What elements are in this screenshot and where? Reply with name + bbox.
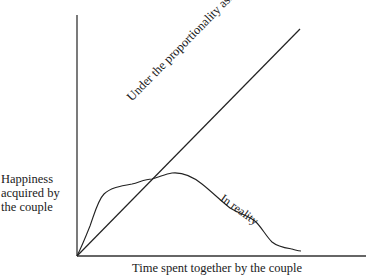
- y-axis-label-line-2: acquired by: [1, 186, 60, 200]
- x-axis-label: Time spent together by the couple: [132, 261, 302, 276]
- reality-curve: [77, 173, 301, 256]
- y-axis-label-line-3: the couple: [1, 200, 60, 214]
- proportional-line: [77, 29, 300, 256]
- y-axis-label-line-1: Happiness: [1, 172, 60, 186]
- y-axis-label: Happiness acquired by the couple: [1, 172, 60, 214]
